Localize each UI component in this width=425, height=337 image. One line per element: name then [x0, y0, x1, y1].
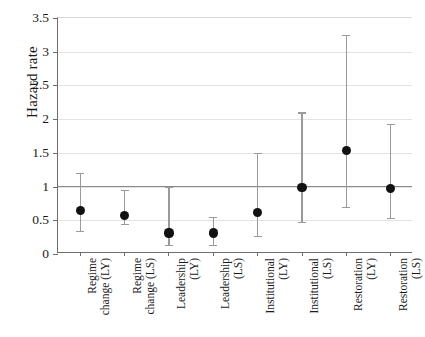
- y-axis-tick: [53, 85, 58, 86]
- error-bar-whisker: [390, 124, 391, 218]
- data-point-marker[interactable]: [120, 211, 129, 220]
- gridline: [58, 220, 412, 221]
- y-axis-tick: [53, 18, 58, 19]
- data-point-marker[interactable]: [164, 228, 173, 237]
- y-axis-tick-label: 3: [42, 44, 49, 60]
- error-bar-cap-upper: [165, 187, 173, 188]
- error-bar-whisker: [301, 112, 302, 221]
- error-bar-whisker: [257, 153, 258, 236]
- x-axis-category-label: Regime change (LY): [86, 258, 100, 337]
- x-axis-tick: [302, 252, 303, 256]
- data-point-group: [346, 18, 347, 252]
- x-axis-tick: [346, 252, 347, 256]
- data-point-group: [302, 18, 303, 252]
- y-axis-tick-label: 1: [42, 179, 49, 195]
- data-point-marker[interactable]: [297, 183, 306, 192]
- y-axis-tick: [53, 153, 58, 154]
- data-point-marker[interactable]: [253, 208, 262, 217]
- error-bar-cap-lower: [209, 245, 217, 246]
- error-bar-cap-upper: [387, 124, 395, 125]
- y-axis-tick: [53, 220, 58, 221]
- error-bar-cap-upper: [209, 217, 217, 218]
- error-bar-cap-upper: [76, 173, 84, 174]
- x-axis-category-label: Leadership (LS): [219, 258, 233, 337]
- y-axis-tick: [53, 254, 58, 255]
- error-bar-cap-lower: [298, 222, 306, 223]
- y-axis-tick: [53, 52, 58, 53]
- error-bar-cap-upper: [254, 153, 262, 154]
- y-axis-tick-label: 1.5: [32, 145, 49, 161]
- y-axis-tick-label: 3.5: [32, 10, 49, 26]
- y-axis-tick: [53, 119, 58, 120]
- gridline: [58, 153, 412, 154]
- x-axis-tick: [390, 252, 391, 256]
- x-axis-tick: [124, 252, 125, 256]
- y-axis-tick-label: 0: [42, 246, 49, 262]
- reference-line-hazard-1: [58, 186, 412, 188]
- x-axis-category-label: Restoration (LY): [352, 258, 366, 337]
- error-bar-cap-lower: [76, 231, 84, 232]
- gridline: [58, 85, 412, 86]
- data-point-group: [258, 18, 259, 252]
- error-bar-cap-upper: [298, 112, 306, 113]
- plot-area: 00.511.522.533.5: [57, 17, 412, 253]
- error-bar-cap-lower: [342, 207, 350, 208]
- error-bar-cap-lower: [254, 236, 262, 237]
- data-point-marker[interactable]: [342, 146, 351, 155]
- y-axis-tick-label: 2.5: [32, 77, 49, 93]
- data-point-group: [169, 18, 170, 252]
- error-bar-cap-upper: [121, 190, 129, 191]
- error-bar-cap-upper: [342, 35, 350, 36]
- data-point-marker[interactable]: [209, 228, 218, 237]
- data-point-group: [125, 18, 126, 252]
- data-point-marker[interactable]: [386, 184, 395, 193]
- data-point-group: [213, 18, 214, 252]
- x-axis-tick: [257, 252, 258, 256]
- error-bar-cap-lower: [165, 245, 173, 246]
- x-axis-category-label: Restoration (LS): [397, 258, 411, 337]
- data-point-group: [391, 18, 392, 252]
- x-axis-category-label: Regime change (LS): [131, 258, 145, 337]
- x-axis-category-label: Institutional (LS): [308, 258, 322, 337]
- x-axis-category-label: Leadership (LY): [175, 258, 189, 337]
- gridline: [58, 52, 412, 53]
- y-axis-tick-label: 2: [42, 111, 49, 127]
- error-bar-whisker: [346, 35, 347, 207]
- y-axis-tick-label: 0.5: [32, 212, 49, 228]
- x-axis-tick: [80, 252, 81, 256]
- error-bar-cap-lower: [387, 218, 395, 219]
- data-point-group: [80, 18, 81, 252]
- gridline: [58, 119, 412, 120]
- x-axis-tick: [213, 252, 214, 256]
- error-bar-cap-lower: [121, 224, 129, 225]
- data-point-marker[interactable]: [76, 206, 85, 215]
- x-axis-tick: [168, 252, 169, 256]
- x-axis-category-label: Institutional (LY): [264, 258, 278, 337]
- hazard-rate-chart: Hazard rate 00.511.522.533.5 Regime chan…: [0, 0, 425, 337]
- error-bar-whisker: [80, 173, 81, 231]
